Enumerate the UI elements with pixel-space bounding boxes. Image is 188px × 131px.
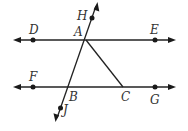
label-a: A [73, 25, 83, 39]
label-h: H [76, 9, 88, 23]
point-h [90, 16, 95, 21]
label-e: E [149, 23, 159, 37]
label-g: G [150, 93, 160, 107]
label-b: B [68, 90, 78, 104]
arrowhead-right-icon [168, 84, 176, 90]
label-c: C [121, 90, 130, 104]
label-f: F [28, 70, 38, 84]
label-d: D [28, 23, 39, 37]
arrowhead-left-icon [13, 84, 21, 90]
point-g [153, 85, 158, 90]
line-de [13, 37, 176, 43]
point-d [31, 38, 36, 43]
line-fg [13, 84, 176, 90]
diagram-canvas: D E H A F B C G J [0, 0, 188, 131]
point-f [31, 85, 36, 90]
segment-ac [86, 40, 123, 87]
point-e [153, 38, 158, 43]
arrowhead-right-icon [168, 37, 176, 43]
arrowhead-left-icon [13, 37, 21, 43]
